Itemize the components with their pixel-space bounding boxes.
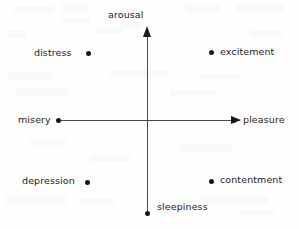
axis-label-sleepiness: sleepiness bbox=[157, 201, 208, 213]
point-label-depression: depression bbox=[22, 175, 75, 187]
point-marker-excitement bbox=[209, 50, 214, 55]
point-marker-distress bbox=[86, 51, 91, 56]
axis-label-pleasure: pleasure bbox=[243, 114, 285, 126]
point-marker-misery bbox=[56, 118, 61, 123]
point-marker-pleasure bbox=[231, 118, 236, 123]
axis-label-arousal: arousal bbox=[108, 9, 143, 21]
point-marker-sleepiness bbox=[145, 211, 150, 216]
arousal-arrowhead-icon bbox=[143, 26, 151, 37]
point-marker-contentment bbox=[209, 179, 214, 184]
point-label-distress: distress bbox=[34, 47, 72, 59]
point-marker-depression bbox=[85, 180, 90, 185]
point-label-contentment: contentment bbox=[220, 174, 282, 186]
circumplex-affect-diagram: arousal distress excitement misery pleas… bbox=[0, 0, 299, 229]
axis-label-misery: misery bbox=[18, 114, 51, 126]
vertical-axis-line bbox=[147, 30, 148, 214]
point-label-excitement: excitement bbox=[220, 46, 274, 58]
horizontal-axis-line bbox=[58, 120, 240, 121]
